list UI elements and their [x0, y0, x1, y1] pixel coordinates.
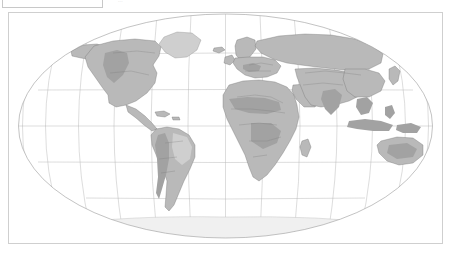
landmass-greenland	[159, 32, 201, 58]
landmass-indonesia	[347, 119, 393, 131]
landmass-new-guinea	[396, 123, 421, 133]
map-canvas[interactable]	[9, 13, 442, 243]
top-left-info-box[interactable]	[2, 0, 103, 8]
clipped-caption-text: ...	[118, 0, 123, 3]
landmass-caribbean	[155, 111, 170, 117]
landmass-antarctica	[59, 217, 393, 240]
landmass-east-asia	[343, 69, 385, 97]
landmass-new-zealand	[432, 161, 441, 173]
landmass-iceland	[213, 47, 225, 53]
landmass-japan	[389, 66, 400, 85]
world-map-figure	[9, 13, 442, 243]
landmass-india	[321, 89, 342, 115]
landmass-philippines	[385, 105, 395, 119]
landmass-madagascar	[300, 139, 311, 157]
landmass-central-america	[126, 105, 157, 131]
world-map-panel[interactable]	[8, 12, 443, 244]
landmass-hispaniola	[172, 117, 180, 120]
landmass-indochina	[356, 97, 373, 115]
